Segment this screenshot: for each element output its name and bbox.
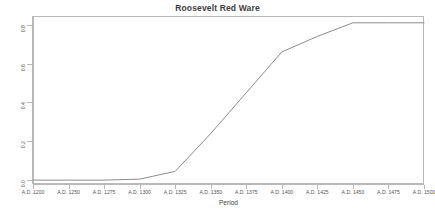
y-axis-tick-label: 0.4 xyxy=(21,102,26,109)
y-axis-tick-label: 0.6 xyxy=(21,64,26,71)
y-axis-tick xyxy=(27,64,32,65)
y-axis-tick-label: 0.2 xyxy=(21,141,26,148)
x-axis-tick-label: A.D. 1275 xyxy=(93,190,116,195)
y-axis-tick xyxy=(27,180,32,181)
x-axis-tick-label: A.D. 1350 xyxy=(199,190,222,195)
x-axis-tick-label: A.D. 1500 xyxy=(413,190,435,195)
chart-container: Roosevelt Red Ware Cumulative Adoption 0… xyxy=(0,0,435,216)
series-line-chart xyxy=(33,16,424,184)
x-axis-tick-label: A.D. 1200 xyxy=(22,190,45,195)
series-line-cumulative-adoption xyxy=(33,23,424,180)
x-axis-tick-label: A.D. 1450 xyxy=(342,190,365,195)
x-axis-title: Period xyxy=(33,199,424,206)
x-axis-tick-label: A.D. 1325 xyxy=(164,190,187,195)
chart-title: Roosevelt Red Ware xyxy=(0,3,435,13)
x-axis-tick-label: A.D. 1375 xyxy=(235,190,258,195)
x-axis-line xyxy=(33,184,424,185)
y-axis-tick xyxy=(27,141,32,142)
plot-area xyxy=(33,16,424,184)
y-axis-tick xyxy=(27,102,32,103)
y-axis-tick-label: 0.8 xyxy=(21,25,26,32)
x-axis-tick-label: A.D. 1425 xyxy=(306,190,329,195)
x-axis-tick-label: A.D. 1300 xyxy=(128,190,151,195)
x-axis-tick-label: A.D. 1250 xyxy=(57,190,80,195)
y-axis-tick-label: 0.0 xyxy=(21,180,26,187)
y-axis-tick xyxy=(27,25,32,26)
x-axis-tick-label: A.D. 1400 xyxy=(270,190,293,195)
x-axis-tick-label: A.D. 1475 xyxy=(377,190,400,195)
